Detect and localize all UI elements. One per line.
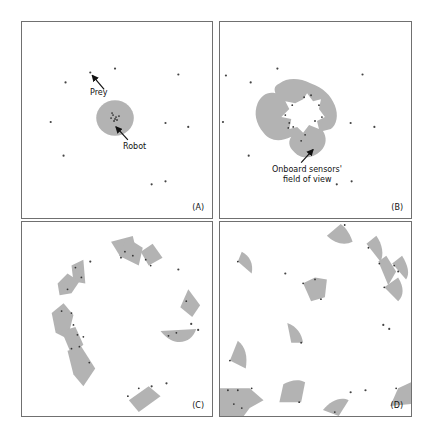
panel-c: (C) [21, 221, 213, 417]
panel-a: Prey Robot (A) [21, 21, 213, 219]
swarm-field-of-view [256, 79, 337, 157]
robot-label: Robot [123, 142, 146, 151]
panel-d-scene [220, 222, 411, 416]
panel-c-scene [22, 222, 212, 416]
panel-d-label: (D) [391, 401, 403, 410]
robot-field-of-view [96, 100, 134, 136]
panel-c-label: (C) [192, 401, 204, 410]
panel-d: (D) [219, 221, 412, 417]
panel-b: Onboard sensors' field of view (B) [219, 21, 412, 219]
prey-dots [284, 272, 390, 393]
panel-b-scene [220, 22, 411, 218]
sensor-label-line1: Onboard sensors' [272, 165, 342, 174]
panel-a-scene [22, 22, 212, 218]
prey-dots [89, 261, 199, 388]
prey-label: Prey [90, 88, 107, 97]
robot-fields-of-view [220, 224, 411, 416]
sensor-label-line2: field of view [283, 175, 331, 184]
panel-b-label: (B) [391, 203, 403, 212]
robot-fields-of-view [52, 236, 200, 412]
panel-a-label: (A) [192, 203, 204, 212]
